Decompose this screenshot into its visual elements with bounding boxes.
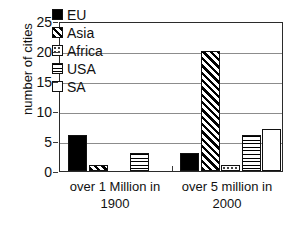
- bar-eu-group-1: [68, 135, 87, 171]
- group-separator-tick: [172, 166, 173, 171]
- y-tick-mark-0: [53, 172, 58, 173]
- y-tick-label-20: 20: [14, 45, 52, 59]
- bar-africa-group-2: [221, 165, 240, 171]
- legend-label: SA: [67, 80, 86, 94]
- legend-label: Asia: [67, 26, 94, 40]
- bar-asia-group-1: [89, 165, 108, 171]
- legend-swatch-eu-icon: [52, 9, 63, 20]
- x-axis-labels: over 1 Million in1900over 5 million in20…: [59, 178, 283, 212]
- y-tick-mark-15: [53, 82, 58, 83]
- y-tick-label-25: 25: [14, 15, 52, 29]
- bar-usa-group-1: [130, 153, 149, 171]
- y-tick-label-10: 10: [14, 105, 52, 119]
- legend-item-asia[interactable]: Asia: [52, 24, 103, 41]
- bar-chart: number of cities 0510152025 EUAsiaAfrica…: [0, 0, 292, 228]
- x-axis-label-line: 1900: [59, 195, 171, 212]
- legend-item-sa[interactable]: SA: [52, 78, 103, 95]
- bar-eu-group-2: [180, 153, 199, 171]
- legend-item-eu[interactable]: EU: [52, 6, 103, 23]
- legend: EUAsiaAfricaUSASA: [52, 6, 103, 95]
- bar-sa-group-2: [262, 129, 281, 171]
- legend-label: EU: [67, 8, 86, 22]
- bar-usa-group-2: [242, 135, 261, 171]
- y-tick-label-5: 5: [14, 135, 52, 149]
- y-tick-mark-5: [53, 142, 58, 143]
- x-axis-label-line: over 1 Million in: [59, 178, 171, 195]
- legend-swatch-asia-icon: [52, 27, 63, 38]
- y-tick-mark-25: [53, 22, 58, 23]
- legend-swatch-africa-icon: [52, 45, 63, 56]
- legend-label: USA: [67, 62, 96, 76]
- y-tick-label-15: 15: [14, 75, 52, 89]
- x-axis-label-line: 2000: [171, 195, 283, 212]
- x-axis-group-label-1: over 1 Million in1900: [59, 178, 171, 212]
- legend-swatch-usa-icon: [52, 63, 63, 74]
- y-axis-ticks: 0510152025: [14, 0, 52, 228]
- legend-item-usa[interactable]: USA: [52, 60, 103, 77]
- legend-item-africa[interactable]: Africa: [52, 42, 103, 59]
- x-axis-label-line: over 5 million in: [171, 178, 283, 195]
- gridline-10: [60, 113, 282, 114]
- x-axis-group-label-2: over 5 million in2000: [171, 178, 283, 212]
- legend-label: Africa: [67, 44, 103, 58]
- y-tick-mark-20: [53, 52, 58, 53]
- y-tick-label-0: 0: [14, 165, 52, 179]
- bar-asia-group-2: [201, 51, 220, 171]
- y-tick-mark-10: [53, 112, 58, 113]
